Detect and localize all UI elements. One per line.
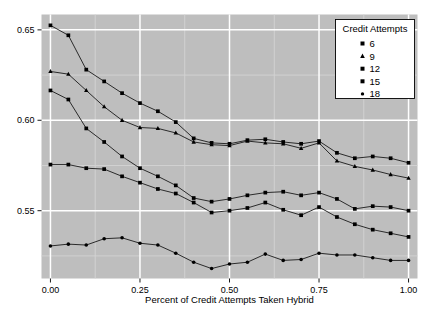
data-point: [353, 222, 357, 226]
data-point: [84, 68, 88, 72]
data-point: [120, 236, 124, 240]
data-point: [192, 260, 196, 264]
data-point: [371, 204, 375, 208]
legend-item-label: 6: [370, 38, 375, 49]
data-point: [210, 267, 214, 271]
data-point: [263, 201, 267, 205]
data-point: [120, 91, 124, 95]
data-point: [102, 167, 106, 171]
legend-marker-square-icon: [361, 67, 365, 71]
legend-item-label: 18: [370, 88, 381, 99]
data-point: [281, 190, 285, 194]
data-point: [49, 89, 53, 93]
data-point: [335, 253, 339, 257]
data-point: [174, 192, 178, 196]
data-point: [156, 187, 160, 191]
x-axis-tick-label: 0.00: [42, 285, 60, 295]
data-point: [84, 166, 88, 170]
data-point: [353, 207, 357, 211]
data-point: [335, 215, 339, 219]
data-point: [389, 156, 393, 160]
data-point: [389, 205, 393, 209]
data-point: [389, 231, 393, 235]
data-point: [174, 120, 178, 124]
x-axis-tick-label: 1.00: [400, 285, 418, 295]
data-point: [353, 156, 357, 160]
data-point: [407, 161, 411, 165]
data-point: [246, 193, 250, 197]
data-point: [317, 191, 321, 195]
legend-marker-square-icon: [361, 42, 365, 46]
data-point: [120, 155, 124, 159]
data-point: [156, 109, 160, 113]
data-point: [353, 253, 357, 257]
legend-item-label: 15: [370, 76, 381, 87]
x-axis-title: Percent of Credit Attempts Taken Hybrid: [145, 294, 314, 305]
x-axis-tick-label: 0.50: [221, 285, 239, 295]
data-point: [299, 258, 303, 262]
data-point: [138, 181, 142, 185]
data-point: [335, 197, 339, 201]
data-point: [174, 251, 178, 255]
data-point: [102, 237, 106, 241]
data-point: [335, 151, 339, 155]
data-point: [84, 243, 88, 247]
data-point: [84, 127, 88, 131]
data-point: [138, 241, 142, 245]
data-point: [192, 201, 196, 205]
data-point: [389, 259, 393, 263]
data-point: [138, 166, 142, 170]
x-axis-tick-label: 0.75: [310, 285, 328, 295]
line-chart: 0.000.250.500.751.000.550.600.65Percent …: [0, 0, 434, 326]
x-axis-tick-label: 0.25: [131, 285, 149, 295]
data-point: [263, 191, 267, 195]
data-point: [228, 197, 232, 201]
data-point: [371, 228, 375, 232]
data-point: [264, 252, 268, 256]
data-point: [299, 213, 303, 217]
data-point: [174, 184, 178, 188]
data-point: [281, 208, 285, 212]
data-point: [371, 155, 375, 159]
data-point: [102, 80, 106, 84]
data-point: [407, 235, 411, 239]
legend-marker-dot-icon: [361, 92, 364, 95]
legend-item-label: 12: [370, 63, 381, 74]
legend-marker-square-icon: [361, 79, 365, 83]
data-point: [49, 163, 53, 167]
data-point: [156, 174, 160, 178]
data-point: [67, 98, 71, 102]
data-point: [102, 140, 106, 144]
data-point: [281, 259, 285, 263]
data-point: [49, 24, 53, 28]
data-point: [210, 200, 214, 204]
data-point: [120, 174, 124, 178]
data-point: [246, 206, 250, 210]
data-point: [210, 211, 214, 215]
chart-legend: Credit Attempts69121518: [336, 20, 415, 100]
data-point: [156, 243, 160, 247]
data-point: [317, 205, 321, 209]
data-point: [67, 33, 71, 37]
data-point: [299, 193, 303, 197]
data-point: [371, 256, 375, 260]
y-axis-tick-label: 0.55: [17, 206, 35, 216]
legend-title: Credit Attempts: [343, 23, 408, 34]
data-point: [299, 142, 303, 146]
data-point: [192, 196, 196, 200]
data-point: [228, 209, 232, 213]
data-point: [67, 242, 71, 246]
data-point: [67, 163, 71, 167]
data-point: [246, 260, 250, 264]
chart-figure: 0.000.250.500.751.000.550.600.65Percent …: [0, 0, 434, 326]
legend-item-label: 9: [370, 51, 375, 62]
data-point: [317, 251, 321, 255]
data-point: [228, 262, 232, 266]
y-axis-tick-label: 0.65: [17, 25, 35, 35]
data-point: [138, 101, 142, 105]
data-point: [407, 259, 411, 263]
data-point: [49, 244, 53, 248]
y-axis-tick-label: 0.60: [17, 115, 35, 125]
data-point: [407, 209, 411, 213]
